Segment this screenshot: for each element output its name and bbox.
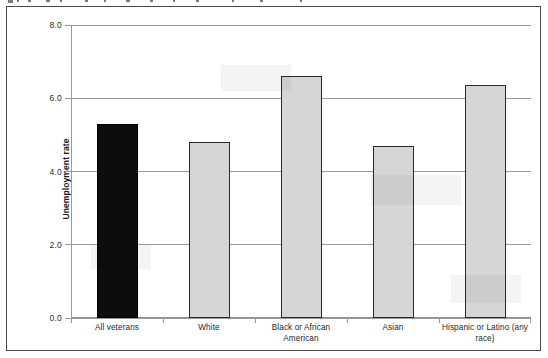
y-tick-label: 2.0 bbox=[50, 240, 62, 250]
bar-all-veterans[interactable] bbox=[97, 124, 138, 318]
y-tick-mark bbox=[65, 171, 71, 172]
chart-figure-frame: Unemployment rate 0.02.04.06.08.0 All ve… bbox=[6, 6, 541, 351]
bar-asian[interactable] bbox=[373, 146, 414, 318]
gridline-8.0 bbox=[71, 25, 531, 26]
y-tick-label: 0.0 bbox=[50, 313, 62, 323]
y-tick-label: 8.0 bbox=[50, 20, 62, 30]
x-category-label-1: All veterans bbox=[71, 322, 163, 333]
plot-area: 0.02.04.06.08.0 bbox=[71, 25, 531, 318]
y-tick-label: 6.0 bbox=[50, 93, 62, 103]
y-tick-mark bbox=[65, 25, 71, 26]
y-tick-mark bbox=[65, 98, 71, 99]
bar-black-or-african-american[interactable] bbox=[281, 76, 322, 318]
x-axis-category-labels: All veteransWhiteBlack or African Americ… bbox=[71, 322, 531, 356]
x-category-label-3: Black or African American bbox=[255, 322, 347, 344]
x-category-label-2: White bbox=[163, 322, 255, 333]
bar-white[interactable] bbox=[189, 142, 230, 318]
y-tick-label: 4.0 bbox=[50, 167, 62, 177]
x-category-label-4: Asian bbox=[347, 322, 439, 333]
y-axis-title: Unemployment rate bbox=[61, 138, 71, 219]
y-tick-mark bbox=[65, 244, 71, 245]
bar-hispanic-or-latino-any-race[interactable] bbox=[465, 85, 506, 318]
x-category-label-5: Hispanic or Latino (any race) bbox=[439, 322, 531, 344]
scan-artifact-strip bbox=[0, 0, 548, 5]
